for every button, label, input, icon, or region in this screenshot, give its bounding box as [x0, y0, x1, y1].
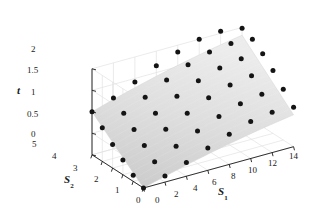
s1-axis-tick-14: 14	[289, 152, 298, 161]
plot-canvas	[0, 0, 309, 212]
data-point	[141, 186, 146, 191]
data-point	[184, 160, 189, 165]
data-point	[174, 94, 179, 99]
data-point	[132, 79, 137, 84]
t-axis-tick-1: 1	[31, 88, 36, 97]
data-point	[164, 78, 169, 83]
data-point	[205, 145, 210, 150]
s1-axis-tick-12: 12	[268, 159, 277, 168]
t-axis-label: t	[17, 85, 20, 96]
data-point	[110, 142, 115, 147]
data-point	[163, 127, 168, 132]
data-point	[248, 119, 253, 124]
data-point	[250, 37, 255, 42]
data-point	[259, 92, 264, 97]
s2-axis-tick-0: 0	[136, 196, 141, 205]
data-point	[131, 173, 136, 178]
s2-axis-label: S2	[64, 174, 74, 188]
data-point	[228, 83, 233, 88]
s2-axis-tick-3: 3	[73, 164, 78, 173]
data-point	[207, 49, 212, 54]
data-point	[90, 109, 95, 114]
data-point	[227, 132, 232, 137]
t-axis-tick-2: 2	[31, 45, 36, 54]
s2-axis-tick-4: 4	[52, 152, 57, 161]
data-point	[239, 56, 244, 61]
data-point	[260, 51, 265, 56]
data-point	[196, 78, 201, 83]
data-point	[185, 111, 190, 116]
s1-axis-tick-6: 6	[212, 178, 217, 187]
t-axis-tick-0: 0	[31, 130, 36, 139]
data-point	[153, 111, 158, 116]
s1-axis-tick-2: 2	[174, 190, 179, 199]
data-point	[100, 125, 105, 130]
data-point	[174, 144, 179, 149]
s2-axis-tick-5: 5	[32, 140, 37, 149]
s2-axis-tick-1: 1	[115, 186, 120, 195]
data-point	[111, 96, 116, 101]
data-point	[218, 29, 223, 34]
data-point	[206, 95, 211, 100]
s2-axis-tick-2: 2	[94, 175, 99, 184]
data-point	[142, 143, 147, 148]
data-point	[238, 101, 243, 106]
data-point	[291, 105, 296, 110]
surface-plot-figure: 0 0.5 1 1.5 2 t 5 4 3 2 1 0 S2 0 2 4 6 8…	[0, 0, 309, 212]
data-point	[121, 111, 126, 116]
s2-axis-label-subscript: 2	[70, 182, 74, 190]
data-point	[216, 114, 221, 119]
data-point	[195, 128, 200, 133]
data-point	[197, 37, 202, 42]
data-point	[270, 68, 275, 73]
s1-axis-tick-0: 0	[155, 196, 160, 205]
data-point	[270, 110, 275, 115]
s1-axis-label-subscript: 1	[224, 194, 228, 202]
data-point	[217, 66, 222, 71]
data-point	[186, 62, 191, 67]
data-point	[175, 50, 180, 55]
data-point	[143, 95, 148, 100]
s1-axis-label: S1	[218, 186, 228, 200]
data-point	[249, 73, 254, 78]
t-axis-tick-0-5: 0.5	[27, 110, 38, 119]
s1-axis-tick-4: 4	[193, 184, 198, 193]
data-point	[132, 127, 137, 132]
data-point	[162, 174, 167, 179]
data-point	[120, 158, 125, 163]
data-point	[152, 159, 157, 164]
data-point	[228, 41, 233, 46]
data-point	[281, 87, 286, 92]
s1-axis-tick-10: 10	[248, 166, 257, 175]
data-point	[240, 26, 245, 31]
t-axis-tick-1-5: 1.5	[27, 66, 38, 75]
data-point	[154, 63, 159, 68]
s1-axis-tick-8: 8	[231, 172, 236, 181]
